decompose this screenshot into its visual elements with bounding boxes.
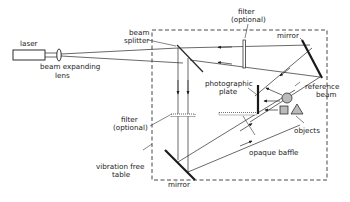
label-mirror-top: mirror xyxy=(277,31,299,40)
beam-expanding-lens xyxy=(57,49,61,61)
label-beam-expanding-lens-2: lens xyxy=(55,71,70,80)
label-filter-top-2: (optional) xyxy=(231,15,266,24)
beam-splitter xyxy=(177,45,203,72)
label-beam-splitter-2: splitter xyxy=(124,36,149,45)
label-opaque-baffle: opaque baffle xyxy=(249,148,299,157)
holography-diagram: laser beam expanding lens beam splitter … xyxy=(0,0,350,202)
label-mirror-bottom: mirror xyxy=(168,180,190,189)
laser-body xyxy=(13,50,45,60)
object-sphere xyxy=(282,93,292,103)
filter-top xyxy=(243,40,246,68)
label-filter-left-2: (optional) xyxy=(113,123,148,132)
label-reference-beam-2: beam xyxy=(316,90,336,99)
object-pyramid xyxy=(291,104,303,114)
object-cube xyxy=(280,106,288,114)
opaque-baffle xyxy=(219,113,257,116)
mirror-top xyxy=(302,40,322,78)
label-beam-expanding-lens: beam expanding xyxy=(40,62,100,71)
label-photographic-plate-2: plate xyxy=(219,87,238,96)
label-laser: laser xyxy=(20,39,38,48)
label-objects: objects xyxy=(294,126,320,135)
filter-left xyxy=(171,114,195,117)
label-vibration-free-table-2: table xyxy=(112,170,131,179)
